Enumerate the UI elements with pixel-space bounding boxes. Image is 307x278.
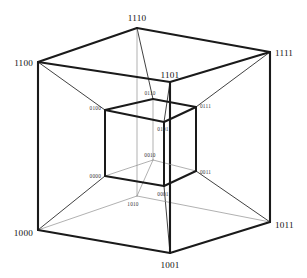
connect-1011-0011 (196, 171, 270, 222)
vertex-label-1001: 1001 (160, 260, 179, 270)
vertex-label-1110: 1110 (128, 13, 147, 23)
outer-edge-1001-1011 (170, 222, 270, 253)
inner-edge-0000-0001 (105, 176, 164, 186)
outer-edge-1101-1111 (170, 52, 270, 82)
outer-cube-hidden-edges (38, 28, 270, 230)
vertex-label-1101: 1101 (161, 70, 180, 80)
vertex-label-0001: 0001 (157, 191, 169, 197)
inner-edge-0001-0011 (164, 171, 196, 186)
outer-edge-1100-1110 (38, 28, 137, 62)
vertex-label-0111: 0111 (200, 103, 211, 109)
vertex-label-1100: 1100 (14, 58, 33, 68)
connect-1000-0000 (38, 176, 105, 230)
connect-1110-0110 (137, 28, 153, 99)
inner-cube-edges (105, 99, 196, 186)
vertex-label-0010: 0010 (144, 152, 156, 158)
vertex-label-1111: 1111 (275, 48, 293, 58)
tesseract-svg: 1110 1100 1111 1101 1000 1011 1001 1010 … (0, 0, 307, 278)
vertex-label-1011: 1011 (275, 220, 294, 230)
vertex-label-0110: 0110 (144, 90, 155, 96)
inner-edge-0100-0110 (105, 99, 153, 110)
inner-cube-hidden-edges (105, 99, 196, 176)
connect-1111-0111 (196, 52, 270, 107)
vertex-label-1010: 1010 (127, 201, 139, 207)
inner-edge-0000-0010 (105, 160, 153, 176)
vertex-label-0101: 0101 (157, 126, 169, 132)
vertex-label-0000: 0000 (90, 173, 102, 179)
vertex-label-1000: 1000 (14, 228, 33, 238)
connect-1010-0010 (137, 160, 153, 196)
outer-edge-1000-1010 (38, 196, 137, 230)
vertex-label-0011: 0011 (200, 169, 211, 175)
outer-edge-1100-1101 (38, 62, 170, 82)
outer-edge-1000-1001 (38, 230, 170, 253)
outer-cube-edges (38, 28, 270, 253)
outer-vertex-labels: 1110 1100 1111 1101 1000 1011 1001 1010 (14, 13, 294, 270)
inner-edge-0110-0111 (153, 99, 196, 107)
inner-edge-0100-0101 (105, 110, 164, 122)
connect-1100-0100 (38, 62, 105, 110)
inner-edge-0101-0111 (164, 107, 196, 122)
tesseract-figure: 1110 1100 1111 1101 1000 1011 1001 1010 … (0, 0, 307, 278)
outer-edge-1110-1111 (137, 28, 270, 52)
outer-edge-1010-1011 (137, 196, 270, 222)
vertex-label-0100: 0100 (90, 105, 102, 111)
inner-edge-0010-0011 (153, 160, 196, 171)
